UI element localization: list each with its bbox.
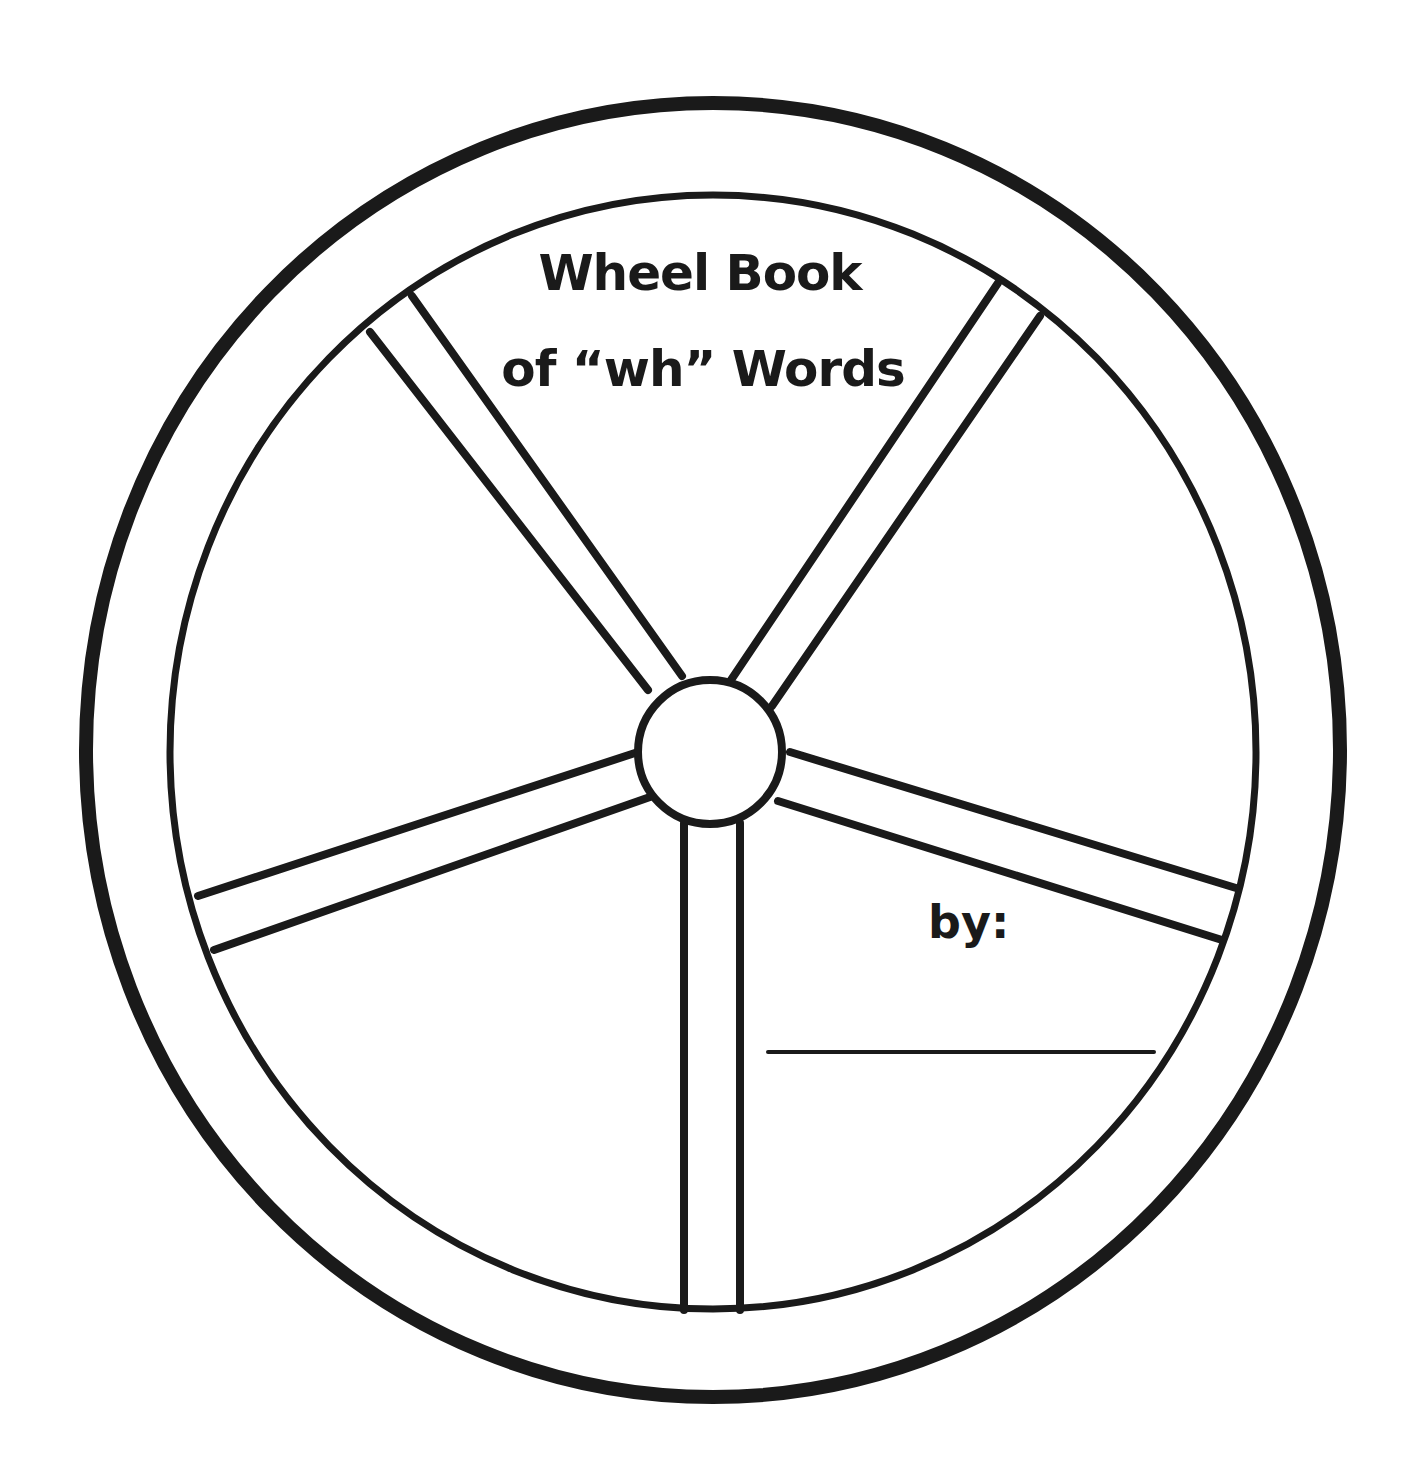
wheel-drawing <box>0 0 1420 1473</box>
title-line-2: of “wh” Words <box>501 340 904 398</box>
hub <box>638 680 782 824</box>
title-line-1: Wheel Book <box>538 244 861 302</box>
by-label: by: <box>928 895 1009 949</box>
spoke-left <box>198 752 650 950</box>
name-writing-line[interactable] <box>766 1050 1156 1054</box>
spoke-bottom <box>684 823 740 1310</box>
